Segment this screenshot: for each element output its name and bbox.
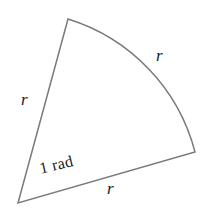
sector-diagram: r r r 1 rad bbox=[0, 0, 216, 219]
radius-left-label: r bbox=[21, 91, 28, 108]
radius-base-label: r bbox=[107, 180, 114, 197]
arc-length-label: r bbox=[156, 47, 163, 64]
